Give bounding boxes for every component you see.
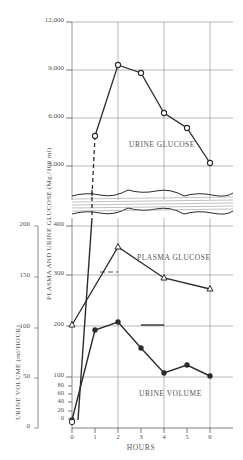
left-tick-200: 200	[0, 220, 30, 228]
x-tick-6: 6	[200, 433, 220, 441]
lower-tick-200: 200	[24, 320, 64, 328]
series-urine-volume	[69, 319, 212, 424]
left-tick-0: 0	[0, 422, 30, 430]
lower-tick-80: 80	[24, 381, 64, 388]
annotation-urine-glucose: URINE GLUCOSE	[129, 140, 195, 149]
series-urine-glucose	[92, 62, 213, 196]
lower-tick-300: 300	[24, 269, 64, 277]
upper-tick-12000: 12,000	[18, 16, 64, 24]
upper-tick-6000: 6,000	[18, 112, 64, 120]
left-tick-150: 150	[0, 271, 30, 279]
annotation-urine-volume: URINE VOLUME	[139, 389, 202, 398]
x-tick-3: 3	[131, 433, 151, 441]
x-tick-4: 4	[154, 433, 174, 441]
axis-break-band	[72, 190, 233, 218]
annotation-plasma-glucose: PLASMA GLUCOSE	[137, 253, 210, 262]
x-tick-5: 5	[177, 433, 197, 441]
x-axis-label: HOURS	[111, 443, 171, 452]
upper-plot-grid	[66, 22, 233, 200]
left-axis-label: URINE VOLUME (ml/HOUR)	[14, 325, 22, 420]
dashed-guides	[100, 272, 164, 325]
lower-tick-100: 100	[24, 371, 64, 379]
upper-tick-9000: 9,000	[18, 64, 64, 72]
upper-tick-3000: 3,000	[18, 160, 64, 168]
x-tick-1: 1	[85, 433, 105, 441]
lower-tick-0: 0	[24, 414, 64, 421]
lower-tick-400: 400	[24, 220, 64, 228]
x-tick-2: 2	[108, 433, 128, 441]
lower-tick-40: 40	[24, 397, 64, 404]
lower-tick-60: 60	[24, 389, 64, 396]
lower-tick-20: 20	[24, 406, 64, 413]
chart-figure: 12,000 9,000 6,000 3,000 400 300 200 100…	[0, 0, 243, 460]
x-tick-0: 0	[62, 433, 82, 441]
right-axis-label: PLASMA AND URINE GLUCOSE (Mg./100 ml)	[45, 148, 53, 300]
